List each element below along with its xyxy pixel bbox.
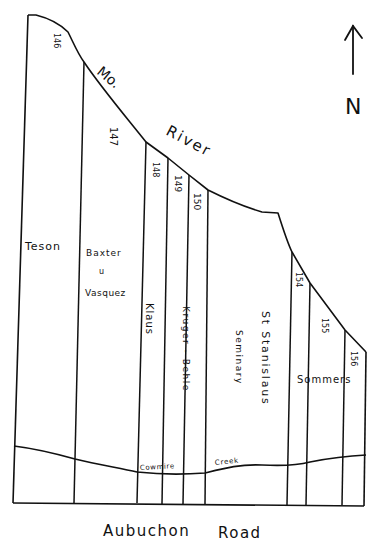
river-label-mo: Mo.	[94, 63, 123, 91]
owner-baxter-conj: u	[99, 267, 104, 276]
lot-line-148-149	[162, 158, 168, 504]
owner-st-stanislaus: St Stanislaus	[259, 311, 272, 406]
road-label-road: Road	[218, 524, 262, 542]
north-arrow-icon	[345, 26, 362, 74]
owner-klaus: Klaus	[144, 303, 155, 335]
road-label-aubuchon: Aubuchon	[103, 522, 190, 540]
lot-line-154-155	[306, 283, 310, 505]
lot-number-154: 154	[294, 272, 303, 287]
lot-line-150-151	[205, 190, 208, 504]
creek-label-part1: Cowmire	[140, 462, 175, 472]
lot-number-148: 148	[151, 162, 160, 177]
owner-baxter: Baxter	[86, 248, 122, 258]
lot-line-146-147	[74, 62, 84, 503]
lot-number-147: 147	[108, 127, 119, 146]
owner-teson: Teson	[24, 240, 61, 253]
owner-vasquez: Vasquez	[85, 288, 126, 298]
lot-number-149: 149	[173, 175, 183, 192]
north-label: N	[345, 94, 361, 119]
river-label-river: River	[163, 122, 215, 161]
left-boundary-line	[13, 15, 28, 503]
lot-line-151-154	[287, 252, 292, 505]
right-boundary-line	[364, 352, 366, 506]
owner-kruger-behle: Kruger - Behle	[181, 306, 191, 392]
road-boundary-line	[13, 503, 364, 506]
lot-number-146: 146	[52, 33, 61, 48]
lot-number-156: 156	[349, 351, 358, 366]
lot-line-155-156	[342, 330, 345, 505]
creek-line	[14, 446, 366, 474]
lot-number-150: 150	[192, 193, 202, 210]
owner-sommers: Sommers	[297, 374, 351, 385]
lot-number-155: 155	[320, 318, 329, 333]
owner-seminary: Seminary	[234, 330, 244, 385]
creek-label-part2: Creek	[214, 456, 239, 467]
plat-map: N Mo. River 146 147 148 149 150 154 155 …	[0, 0, 380, 552]
